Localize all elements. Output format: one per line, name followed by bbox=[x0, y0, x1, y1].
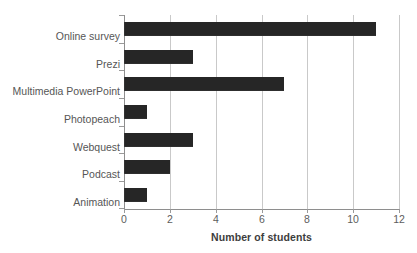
y-axis-tick bbox=[119, 15, 124, 16]
y-axis-tick bbox=[119, 126, 124, 127]
y-axis-tick-label: Animation bbox=[0, 196, 120, 208]
x-axis-tick-label: 2 bbox=[167, 213, 173, 226]
x-axis-tick-labels: 0 2 4 6 8 10 12 bbox=[124, 213, 399, 229]
chart-figure: Online survey Prezi Multimedia PowerPoin… bbox=[0, 0, 417, 253]
gridline-8 bbox=[307, 15, 308, 209]
x-axis-tick-label: 10 bbox=[347, 213, 359, 226]
x-axis-tick-label: 4 bbox=[213, 213, 219, 226]
gridline-10 bbox=[353, 15, 354, 209]
bar-photopeach bbox=[124, 105, 147, 119]
x-axis-tick-label: 6 bbox=[259, 213, 265, 226]
plot-area bbox=[124, 15, 399, 209]
x-axis-tick-label: 0 bbox=[121, 213, 127, 226]
x-axis-tick-label: 12 bbox=[393, 213, 405, 226]
gridline-4 bbox=[216, 15, 217, 209]
bar-multimedia-powerpoint bbox=[124, 77, 284, 91]
gridline-6 bbox=[262, 15, 263, 209]
y-axis-tick-label: Podcast bbox=[0, 168, 120, 180]
y-axis-tick bbox=[119, 181, 124, 182]
bar-animation bbox=[124, 188, 147, 202]
bar-online-survey bbox=[124, 22, 376, 36]
bar-prezi bbox=[124, 50, 193, 64]
y-axis-tick-label: Webquest bbox=[0, 141, 120, 153]
y-axis-tick bbox=[119, 70, 124, 71]
y-axis-tick bbox=[119, 98, 124, 99]
y-axis-category-labels: Online survey Prezi Multimedia PowerPoin… bbox=[0, 15, 120, 209]
y-axis-tick bbox=[119, 43, 124, 44]
y-axis-tick-label: Online survey bbox=[0, 30, 120, 42]
bar-webquest bbox=[124, 133, 193, 147]
gridline-2 bbox=[170, 15, 171, 209]
y-axis-tick-label: Photopeach bbox=[0, 113, 120, 125]
x-axis-tick-label: 8 bbox=[304, 213, 310, 226]
bar-podcast bbox=[124, 160, 170, 174]
y-axis-tick bbox=[119, 153, 124, 154]
y-axis-tick-label: Multimedia PowerPoint bbox=[0, 85, 120, 97]
y-axis-tick-label: Prezi bbox=[0, 58, 120, 70]
x-axis-title: Number of students bbox=[124, 231, 399, 243]
plot-right-border bbox=[399, 15, 400, 209]
